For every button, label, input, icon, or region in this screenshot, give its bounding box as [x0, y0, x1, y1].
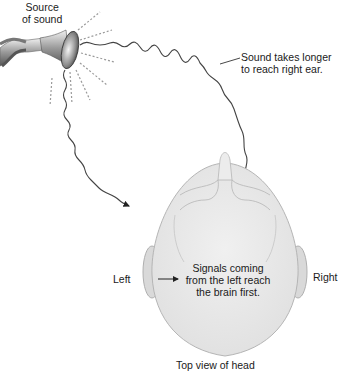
right-ear-label: Right [313, 271, 338, 283]
delay-label-line2: to reach right ear. [241, 63, 331, 75]
signal-label: Signals coming from the left reach the b… [176, 262, 280, 298]
head-top-view [143, 153, 307, 357]
horn-icon [0, 30, 82, 70]
delay-label-line1: Sound takes longer [241, 51, 331, 63]
callout-line [220, 58, 240, 64]
source-label: Source of sound [22, 1, 62, 25]
source-label-line1: Source [22, 1, 62, 13]
signal-label-line1: Signals coming [176, 262, 280, 274]
caption-label: Top view of head [176, 359, 255, 371]
signal-label-line3: the brain first. [176, 286, 280, 298]
right-ear-delay-label: Sound takes longer to reach right ear. [241, 51, 331, 75]
signal-label-line2: from the left reach [176, 274, 280, 286]
left-ear-label: Left [113, 273, 131, 285]
source-label-line2: of sound [22, 13, 62, 25]
sound-wave-left [64, 70, 130, 206]
